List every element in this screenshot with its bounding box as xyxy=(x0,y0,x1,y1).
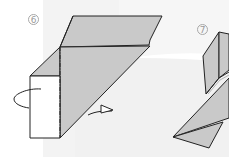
step-number-6: 6 xyxy=(28,14,39,25)
step-number-7: 7 xyxy=(197,24,208,35)
top-panel xyxy=(60,16,162,47)
box-front-face xyxy=(219,32,229,78)
white-front-face xyxy=(30,76,60,138)
